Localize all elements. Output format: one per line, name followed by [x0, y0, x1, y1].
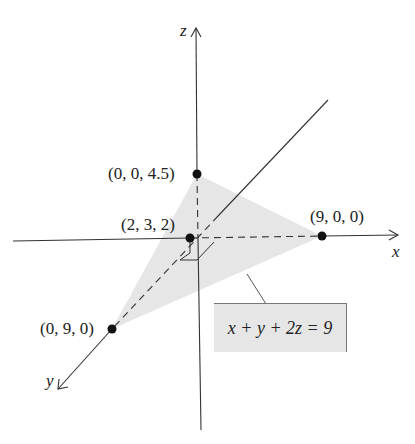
point-label: (0, 9, 0): [40, 320, 94, 337]
point-label: (9, 0, 0): [310, 208, 364, 225]
x-axis-label: x: [392, 243, 400, 260]
plane-equation: x + y + 2z = 9: [228, 318, 332, 339]
y-axis-upper: [218, 100, 328, 216]
y-axis-label: y: [46, 372, 54, 389]
point-label: (0, 0, 4.5): [108, 165, 175, 182]
point-label: (2, 3, 2): [121, 216, 175, 233]
y-axis-lower: [58, 329, 112, 389]
point-9-0-0: [318, 232, 327, 241]
leader-line: [247, 274, 266, 304]
plane-equation-box: x + y + 2z = 9: [214, 303, 347, 352]
point-0-0-4.5: [193, 170, 202, 179]
z-axis-label: z: [180, 22, 187, 39]
point-2-3-2: [186, 234, 195, 243]
x-axis-right: [322, 235, 398, 236]
z-axis-upper: [196, 28, 197, 174]
point-0-9-0: [108, 325, 117, 334]
